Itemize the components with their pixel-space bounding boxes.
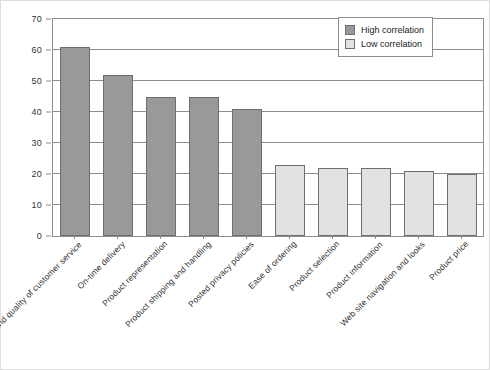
x-axis-tick-mark: [289, 235, 290, 239]
x-axis-category-labels: Level and quality of customer serviceOn-…: [52, 239, 484, 369]
chart-legend: High correlationLow correlation: [338, 17, 433, 57]
x-axis-tick-mark: [117, 235, 118, 239]
bar: [447, 174, 477, 236]
y-axis-tick-label-0: 0: [37, 231, 42, 241]
y-axis-tick-label-60: 60: [32, 45, 42, 55]
y-axis-tick-mark-0: [46, 236, 51, 237]
y-axis-tick-label-40: 40: [32, 107, 42, 117]
x-axis-tick-mark: [332, 235, 333, 239]
bar: [60, 47, 90, 236]
legend-item-label: Low correlation: [361, 39, 422, 49]
y-axis-tick-mark-10: [46, 205, 51, 206]
legend-swatch-icon: [345, 25, 355, 35]
bar-chart-figure: 010203040506070 High correlationLow corr…: [0, 0, 490, 370]
bar: [318, 168, 348, 236]
y-axis-tick-label-70: 70: [32, 14, 42, 24]
x-axis-tick-mark: [74, 235, 75, 239]
legend-item[interactable]: Low correlation: [345, 37, 424, 51]
legend-swatch-icon: [345, 39, 355, 49]
x-axis-category-label: Product price: [427, 239, 470, 282]
y-axis-tick-label-30: 30: [32, 138, 42, 148]
y-axis-tick-mark-60: [46, 50, 51, 51]
bar: [103, 75, 133, 236]
bar: [275, 165, 305, 236]
bar: [189, 97, 219, 237]
bar: [404, 171, 434, 236]
y-axis: 010203040506070: [1, 11, 51, 244]
legend-item[interactable]: High correlation: [345, 23, 424, 37]
legend-item-label: High correlation: [361, 25, 424, 35]
x-axis-tick-mark: [418, 235, 419, 239]
y-axis-tick-label-10: 10: [32, 200, 42, 210]
y-axis-tick-mark-20: [46, 174, 51, 175]
x-axis-tick-mark: [375, 235, 376, 239]
x-axis-category-label: Web site navigation and looks: [338, 239, 427, 328]
x-axis-tick-mark: [160, 235, 161, 239]
y-axis-tick-mark-70: [46, 19, 51, 20]
y-axis-tick-mark-50: [46, 81, 51, 82]
x-axis-category-label: Level and quality of customer service: [0, 239, 83, 348]
bar: [232, 109, 262, 236]
y-axis-tick-label-50: 50: [32, 76, 42, 86]
x-axis-tick-mark: [246, 235, 247, 239]
x-axis-tick-mark: [461, 235, 462, 239]
y-axis-tick-mark-30: [46, 143, 51, 144]
y-axis-tick-mark-40: [46, 112, 51, 113]
x-axis-category-label: Product shipping and handling: [123, 239, 213, 329]
x-axis-tick-mark: [203, 235, 204, 239]
bar: [146, 97, 176, 237]
y-axis-tick-label-20: 20: [32, 169, 42, 179]
bar: [361, 168, 391, 236]
